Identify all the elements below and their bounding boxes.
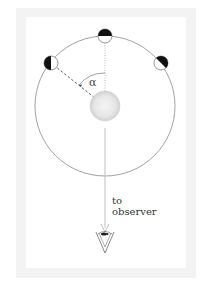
orbit-diagram [0,0,204,287]
observer-label-to: to [112,196,122,206]
observer-label-observer: observer [112,207,157,217]
star-icon [90,91,120,121]
planet-right-icon [154,56,168,70]
angle-label: α [89,78,96,88]
observer-eye-icon [96,232,114,254]
planet-top-icon [98,29,112,43]
